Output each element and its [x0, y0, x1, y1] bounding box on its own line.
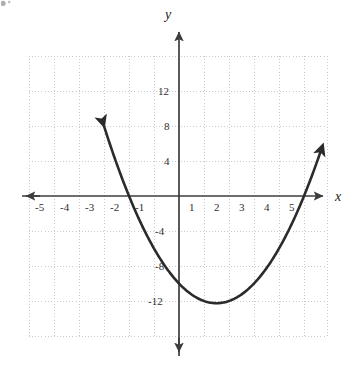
coordinate-plane: [0, 0, 353, 371]
y-tick-label--4: -4: [155, 226, 164, 237]
y-tick-label--12: -12: [148, 296, 163, 307]
x-tick-label-2: 2: [214, 202, 220, 213]
x-tick-label--1: -1: [135, 202, 144, 213]
x-axis-label: x: [335, 190, 341, 204]
y-axis-label: y: [165, 8, 171, 22]
y-tick-label--8: -8: [155, 261, 164, 272]
y-tick-label-4: 4: [164, 156, 170, 167]
y-tick-label-12: 12: [158, 86, 169, 97]
x-tick-label--5: -5: [35, 202, 44, 213]
y-tick-label-8: 8: [164, 121, 170, 132]
x-tick-label-3: 3: [239, 202, 245, 213]
x-tick-label-5: 5: [289, 202, 295, 213]
x-tick-label--4: -4: [60, 202, 69, 213]
x-tick-label-1: 1: [189, 202, 195, 213]
graph-figure: -5 -4 -3 -2 -1 1 2 3 4 5 12 8 4 -4 -8 -1…: [0, 0, 353, 371]
x-tick-label-4: 4: [264, 202, 270, 213]
x-tick-label--2: -2: [110, 202, 119, 213]
x-tick-label--3: -3: [85, 202, 94, 213]
